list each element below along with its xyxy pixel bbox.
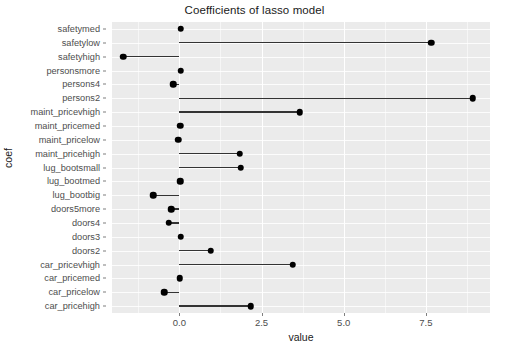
y-axis-tick-label: safetymed [58,24,100,34]
x-axis-tick-mark [179,313,180,316]
lollipop-point[interactable] [168,206,175,213]
y-axis-tick-label: car_pricemed [44,273,100,283]
lollipop-segment [153,195,179,196]
grid-line-horizontal [112,29,490,30]
y-axis-tick-mark [103,70,106,71]
y-axis-tick-mark [103,98,106,99]
grid-line-horizontal [112,306,490,307]
x-axis-title: value [112,331,490,343]
y-axis-tick-mark [103,125,106,126]
x-axis-tick-label: 2.5 [255,317,268,328]
y-axis-title: coef [2,138,14,178]
x-axis-tick-mark [344,313,345,316]
grid-line-horizontal [112,71,490,72]
lollipop-segment [179,153,239,154]
grid-line-horizontal [112,154,490,155]
y-axis-tick-mark [103,264,106,265]
lollipop-segment [179,305,250,306]
lollipop-point[interactable] [170,81,177,88]
lollipop-point[interactable] [247,303,254,310]
lollipop-point[interactable] [150,192,157,199]
lollipop-segment [179,111,299,112]
y-axis-tick-label: persons2 [62,93,100,103]
lasso-coefficient-chart: Coefficients of lasso model safetymedsaf… [0,0,509,348]
y-axis-tick-label: doors3 [72,232,100,242]
grid-line-horizontal [112,278,490,279]
x-axis-tick-label: 7.5 [419,317,432,328]
x-axis-tick-label: 5.0 [337,317,350,328]
y-axis-tick-label: lug_bootbig [52,190,100,200]
lollipop-segment [179,250,210,251]
y-axis-tick-label: doors5more [51,204,100,214]
lollipop-segment [179,98,473,99]
lollipop-segment [179,167,240,168]
y-axis-tick-label: lug_bootmed [47,176,100,186]
y-axis-tick-label: doors4 [72,218,100,228]
lollipop-point[interactable] [428,40,435,47]
y-axis-tick-label: maint_pricevhigh [31,107,100,117]
y-axis-tick-label: car_pricehigh [45,301,100,311]
lollipop-segment [179,264,292,265]
y-axis-tick-mark [103,292,106,293]
y-axis-tick-mark [103,42,106,43]
y-axis-tick-label: maint_pricelow [39,135,100,145]
lollipop-point[interactable] [207,247,214,254]
y-axis-tick-label: persons4 [62,79,100,89]
y-axis-tick-mark [103,112,106,113]
y-axis-tick-mark [103,250,106,251]
lollipop-point[interactable] [177,123,184,130]
x-axis-tick-label: 0.0 [173,317,186,328]
y-axis-tick-mark [103,153,106,154]
lollipop-point[interactable] [175,137,182,144]
y-axis-tick-label: car_pricelow [48,287,100,297]
y-axis-tick-mark [103,209,106,210]
y-axis-tick-label: car_pricevhigh [40,260,100,270]
grid-line-horizontal [112,181,490,182]
y-axis-tick-label: safetyhigh [58,52,100,62]
lollipop-segment [123,56,179,57]
y-axis-tick-mark [103,278,106,279]
grid-line-horizontal [112,140,490,141]
grid-line-horizontal [112,265,490,266]
y-axis-tick-mark [103,167,106,168]
lollipop-segment [179,42,431,43]
y-axis-tick-mark [103,28,106,29]
lollipop-point[interactable] [176,275,183,282]
y-axis-tick-label: doors2 [72,246,100,256]
grid-line-horizontal [112,251,490,252]
lollipop-point[interactable] [177,67,184,74]
grid-line-horizontal [112,126,490,127]
y-axis-tick-mark [103,139,106,140]
y-axis-tick-mark [103,56,106,57]
x-axis-tick-mark [426,313,427,316]
y-axis-tick-label: safetylow [62,38,100,48]
y-axis-tick-label: maint_pricemed [35,121,100,131]
y-axis-tick-mark [103,84,106,85]
y-axis-tick-mark [103,181,106,182]
y-axis-tick-label: lug_bootsmall [43,163,100,173]
lollipop-point[interactable] [177,178,184,185]
grid-line-horizontal [112,84,490,85]
y-axis-tick-mark [103,195,106,196]
plot-panel [112,22,490,313]
grid-line-horizontal [112,237,490,238]
x-axis-tick-mark [262,313,263,316]
lollipop-point[interactable] [177,26,184,33]
grid-line-horizontal [112,168,490,169]
y-axis-labels: safetymedsafetylowsafetyhighpersonsmorep… [0,22,106,313]
lollipop-point[interactable] [161,289,168,296]
y-axis-tick-mark [103,222,106,223]
y-axis-tick-mark [103,236,106,237]
lollipop-point[interactable] [236,150,243,157]
lollipop-point[interactable] [470,95,477,102]
y-axis-tick-label: personsmore [46,66,100,76]
y-axis-tick-label: maint_pricehigh [35,149,100,159]
lollipop-point[interactable] [237,164,244,171]
lollipop-point[interactable] [296,109,303,116]
y-axis-tick-mark [103,306,106,307]
lollipop-point[interactable] [165,220,172,227]
chart-title: Coefficients of lasso model [0,4,509,16]
lollipop-point[interactable] [120,53,127,60]
lollipop-point[interactable] [290,261,297,268]
lollipop-point[interactable] [177,234,184,241]
